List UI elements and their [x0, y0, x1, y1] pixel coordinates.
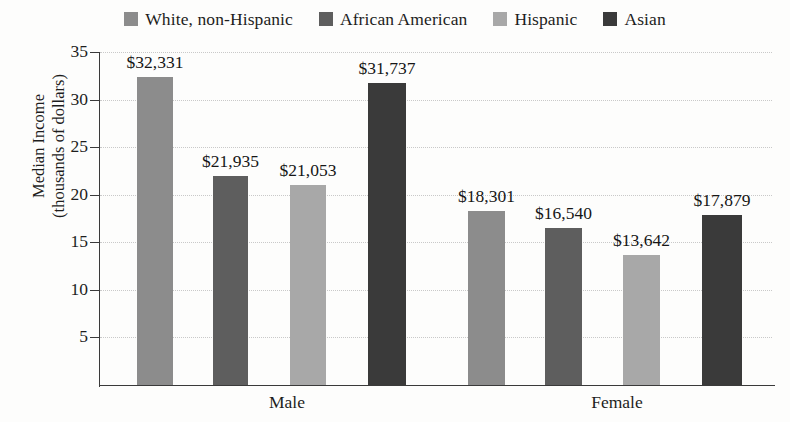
- y-tick-label: 35: [48, 43, 88, 60]
- bar-value-label: $18,301: [439, 187, 535, 205]
- legend-item-asian: Asian: [603, 10, 665, 28]
- legend-swatch-icon: [493, 12, 507, 26]
- y-tick-mark: [90, 242, 100, 243]
- legend-swatch-icon: [603, 12, 617, 26]
- legend-item-african-american: African American: [319, 10, 467, 28]
- bar: [290, 185, 326, 385]
- bar: [468, 211, 505, 385]
- gridline: [100, 195, 772, 196]
- y-tick-label: 20: [48, 186, 88, 203]
- y-tick-label: 30: [48, 91, 88, 108]
- chart-legend: White, non-Hispanic African American His…: [0, 6, 790, 32]
- legend-swatch-icon: [124, 12, 138, 26]
- bar-value-label: $13,642: [594, 231, 690, 249]
- legend-item-label: Hispanic: [514, 10, 577, 28]
- bar: [213, 176, 248, 385]
- bar: [137, 77, 173, 385]
- bar-chart: White, non-Hispanic African American His…: [0, 0, 790, 422]
- bar-value-label: $32,331: [107, 53, 203, 71]
- x-axis-group-label: Male: [217, 392, 357, 412]
- bar: [623, 255, 660, 385]
- gridline: [100, 337, 772, 338]
- gridline: [100, 290, 772, 291]
- legend-item-label: African American: [340, 10, 467, 28]
- bar-value-label: $16,540: [516, 204, 612, 222]
- y-tick-mark: [90, 100, 100, 101]
- y-tick-mark: [90, 337, 100, 338]
- bar: [368, 83, 406, 385]
- y-tick-label: 10: [48, 281, 88, 298]
- y-tick-label: 15: [48, 233, 88, 250]
- legend-item-hispanic: Hispanic: [493, 10, 577, 28]
- bar: [545, 228, 582, 385]
- y-tick-mark: [90, 290, 100, 291]
- y-tick-label: 25: [48, 138, 88, 155]
- legend-item-label: Asian: [624, 10, 665, 28]
- legend-item-label: White, non-Hispanic: [145, 10, 293, 28]
- y-tick-mark: [90, 52, 100, 53]
- x-axis-line: [99, 385, 775, 386]
- bar: [702, 215, 742, 385]
- plot-area: [100, 50, 772, 385]
- gridline: [100, 100, 772, 101]
- y-tick-mark: [90, 147, 100, 148]
- legend-item-white-non-hispanic: White, non-Hispanic: [124, 10, 293, 28]
- bar-value-label: $21,053: [260, 161, 356, 179]
- y-axis-ticks: 3530252015105: [0, 0, 88, 422]
- y-tick-mark: [90, 195, 100, 196]
- y-tick-label: 5: [48, 328, 88, 345]
- gridline: [100, 147, 772, 148]
- legend-swatch-icon: [319, 12, 333, 26]
- x-axis-group-label: Female: [547, 392, 687, 412]
- bar-value-label: $17,879: [674, 191, 770, 209]
- bar-value-label: $31,737: [339, 59, 435, 77]
